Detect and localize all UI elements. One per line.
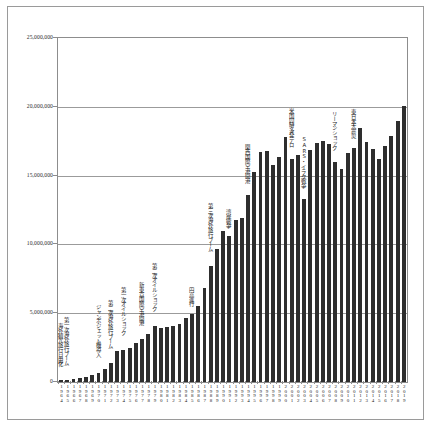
bar[interactable] [321,141,325,382]
bar[interactable] [271,165,275,382]
x-axis-tick-label: 2014 [370,384,375,402]
x-axis-tick-label: 1977 [140,384,145,402]
x-axis-tick-label: 1982 [171,384,176,402]
bar[interactable] [146,334,150,383]
bar[interactable] [234,220,238,382]
bar[interactable] [302,199,306,382]
bar[interactable] [265,151,269,382]
x-axis-tick-mark [307,381,308,384]
bar[interactable] [190,314,194,382]
bar[interactable] [90,375,94,382]
bar[interactable] [296,155,300,382]
x-axis-tick-label: 2002 [295,384,300,402]
bar[interactable] [84,377,88,382]
bar[interactable] [284,137,288,382]
x-axis-tick-label: 1999 [277,384,282,402]
bar[interactable] [389,136,393,382]
x-axis-tick-label: 2000 [283,384,288,402]
bar[interactable] [346,153,350,382]
bar[interactable] [78,378,82,382]
bar[interactable] [140,339,144,382]
x-axis-tick-label: 2001 [289,384,294,402]
bar[interactable] [65,380,69,382]
bar[interactable] [227,236,231,382]
bar[interactable] [240,218,244,382]
bar[interactable] [277,157,281,382]
bar[interactable] [153,326,157,382]
bar[interactable] [165,327,169,382]
x-axis-tick-mark [388,381,389,384]
bar[interactable] [377,159,381,382]
bar[interactable] [121,350,125,382]
x-axis-tick-label: 2006 [320,384,325,402]
y-axis: 25,000,00020,000,00015,000,00010,000,000… [0,37,53,383]
bar[interactable] [215,249,219,382]
x-axis-tick-mark [257,381,258,384]
x-axis-tick-label: 2003 [302,384,307,402]
x-axis-tick-mark [276,381,277,384]
bar[interactable] [396,121,400,382]
x-axis-tick-mark [395,381,396,384]
bar[interactable] [259,152,263,382]
bar[interactable] [371,149,375,382]
bar[interactable] [134,343,138,382]
bar[interactable] [196,306,200,382]
bar[interactable] [383,146,387,382]
x-axis-tick-label: 1984 [183,384,188,402]
bar[interactable] [178,324,182,382]
bar[interactable] [402,106,406,382]
x-axis-tick-mark [139,381,140,384]
x-axis-tick-label: 1978 [146,384,151,402]
x-axis-tick-label: 1981 [164,384,169,402]
x-axis-tick-label: 1967 [77,384,82,402]
x-axis-tick-label: 2008 [333,384,338,402]
bar[interactable] [290,159,294,382]
bar[interactable] [203,288,207,382]
bar[interactable] [315,143,319,382]
bar[interactable] [327,144,331,382]
bar[interactable] [59,380,63,382]
x-axis-tick-label: 1988 [208,384,213,402]
bar[interactable] [221,231,225,382]
bar[interactable] [184,318,188,382]
x-axis-tick-mark [251,381,252,384]
x-axis-tick-mark [170,381,171,384]
bar[interactable] [246,195,250,382]
x-axis-tick-mark [133,381,134,384]
x-axis-tick-mark [233,381,234,384]
x-axis-tick-label: 1998 [270,384,275,402]
x-axis-tick-mark [382,381,383,384]
x-axis-tick-mark [102,381,103,384]
bar[interactable] [109,363,113,382]
x-axis-tick-label: 1972 [108,384,113,402]
x-axis-tick-mark [108,381,109,384]
x-axis-tick-mark [95,381,96,384]
x-axis-tick-mark [158,381,159,384]
bar[interactable] [115,351,119,382]
bar[interactable] [358,128,362,382]
x-axis-tick-label: 1970 [96,384,101,402]
x-axis-tick-mark [189,381,190,384]
x-axis-tick-mark [370,381,371,384]
x-axis-tick-mark [183,381,184,384]
x-axis-tick-label: 1997 [264,384,269,402]
bar[interactable] [72,379,76,382]
bar[interactable] [128,348,132,382]
x-axis-tick-label: 2011 [351,384,356,402]
x-axis-tick-mark [64,381,65,384]
bar[interactable] [171,326,175,382]
bar[interactable] [308,150,312,382]
bar[interactable] [159,328,163,382]
x-axis-tick-label: 2009 [339,384,344,402]
bar[interactable] [333,162,337,382]
bar[interactable] [340,169,344,382]
bar[interactable] [209,266,213,382]
bar[interactable] [103,369,107,382]
x-axis-tick-mark [89,381,90,384]
bar[interactable] [252,172,256,383]
x-axis-tick-label: 1986 [196,384,201,402]
bar[interactable] [97,373,101,382]
bar[interactable] [365,142,369,382]
bar[interactable] [352,148,356,382]
x-axis-tick-label: 1979 [152,384,157,402]
